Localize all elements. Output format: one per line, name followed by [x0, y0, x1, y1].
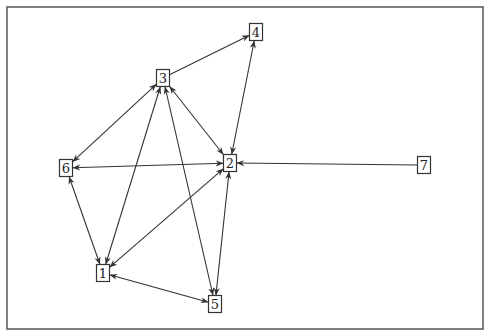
- node-7: 7: [418, 157, 431, 174]
- nodes-layer: 1234567: [60, 24, 431, 313]
- node-label: 3: [159, 71, 167, 86]
- node-label: 5: [211, 297, 219, 312]
- node-label: 2: [226, 156, 234, 171]
- graph-canvas: 1234567: [0, 0, 488, 336]
- edge-6-1: [69, 177, 100, 265]
- node-6: 6: [60, 160, 73, 177]
- edge-1-2: [110, 169, 224, 268]
- edges-layer: [69, 35, 418, 302]
- edge-3-6: [73, 84, 157, 162]
- edge-3-4: [170, 35, 250, 75]
- edge-3-2: [170, 86, 224, 155]
- node-1: 1: [97, 265, 110, 282]
- node-label: 4: [252, 25, 260, 40]
- edge-6-2: [73, 163, 224, 168]
- edge-3-5: [165, 87, 213, 296]
- edge-7-2: [237, 163, 418, 165]
- node-4: 4: [250, 24, 263, 41]
- edge-1-5: [110, 275, 209, 302]
- edge-3-1: [106, 87, 161, 265]
- edge-2-4: [232, 41, 255, 155]
- node-label: 7: [420, 158, 428, 173]
- node-label: 1: [99, 266, 107, 281]
- node-3: 3: [157, 70, 170, 87]
- node-label: 6: [62, 161, 70, 176]
- node-5: 5: [209, 296, 222, 313]
- edge-2-5: [216, 172, 229, 296]
- node-2: 2: [224, 155, 237, 172]
